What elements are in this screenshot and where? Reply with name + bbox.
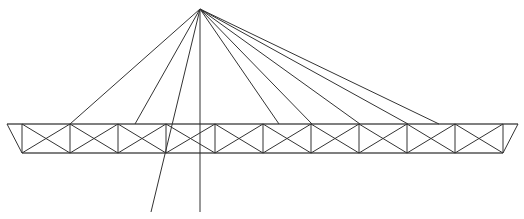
left-end-member: [7, 124, 22, 153]
cable: [151, 9, 200, 212]
cable: [200, 9, 312, 124]
cable: [135, 9, 200, 124]
cable: [70, 9, 200, 124]
cables: [70, 9, 439, 212]
cable: [200, 9, 408, 124]
cable: [200, 9, 439, 124]
cable: [200, 9, 279, 124]
truss: [7, 124, 518, 153]
right-end-member: [503, 124, 518, 153]
cable-stayed-truss-diagram: [0, 0, 524, 219]
cable: [200, 9, 360, 124]
